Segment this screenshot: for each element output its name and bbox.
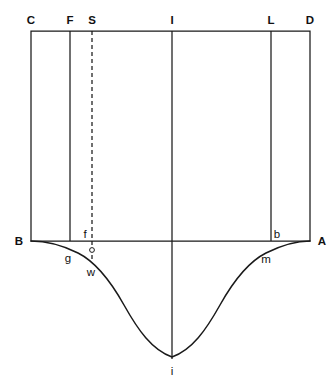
label-m: m [261,253,271,265]
label-f-lower: f [83,228,87,240]
technical-diagram-svg: C F S I L D B f b A g w m i [0,0,336,388]
label-i-bottom: i [171,365,174,377]
rectangle-outline [31,31,310,241]
label-g: g [65,252,71,264]
diagram-root: C F S I L D B f b A g w m i [0,0,336,388]
label-B: B [15,235,23,247]
label-L: L [267,14,274,26]
label-I: I [170,14,173,26]
label-w: w [86,266,96,278]
label-A: A [318,235,326,247]
label-S: S [88,14,96,26]
label-b-lower: b [274,228,280,240]
label-F: F [66,14,73,26]
point-marker-circle [90,248,95,253]
label-D: D [306,14,314,26]
label-C: C [27,14,35,26]
